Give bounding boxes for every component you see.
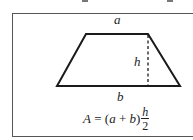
formula-plus: + <box>116 111 130 127</box>
formula-equals: = <box>91 111 105 127</box>
fraction-numerator: h <box>141 106 149 119</box>
trapezoid-shape <box>57 34 180 86</box>
label-bottom-side-b: b <box>117 90 124 103</box>
formula-area-symbol: A <box>83 111 91 127</box>
label-height-h: h <box>134 55 141 68</box>
label-top-side-a: a <box>114 13 121 26</box>
fraction-denominator: 2 <box>142 119 148 132</box>
formula-close-paren: ) <box>136 111 140 127</box>
formula-fraction: h 2 <box>141 106 149 132</box>
area-formula: A = ( a + b ) h 2 <box>83 106 149 132</box>
